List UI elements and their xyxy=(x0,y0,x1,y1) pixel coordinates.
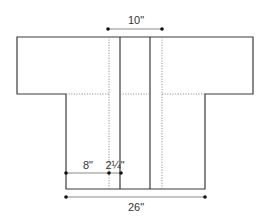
dimension-label-left-panel: 8" xyxy=(83,160,93,171)
dimension-label-band: 2¼" xyxy=(105,160,124,171)
dimension-dot xyxy=(119,171,123,175)
garment-outline xyxy=(17,37,253,189)
dimension-label-bottom: 26" xyxy=(128,202,144,213)
dimension-dot xyxy=(160,27,164,31)
dimension-dot xyxy=(64,171,68,175)
dimension-dot xyxy=(203,195,207,199)
schematic-drawing xyxy=(0,0,267,217)
dimension-dot xyxy=(64,195,68,199)
dimension-dot xyxy=(106,27,110,31)
dimension-dot xyxy=(107,171,111,175)
dimension-label-top: 10" xyxy=(128,15,144,26)
